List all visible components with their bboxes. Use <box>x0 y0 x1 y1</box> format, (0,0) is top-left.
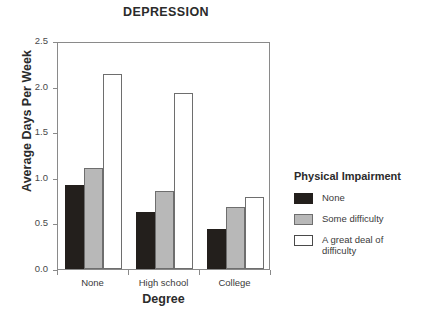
bar <box>174 93 193 269</box>
x-axis-category-label: None <box>57 277 128 288</box>
y-axis-tick-label: 0.5 <box>35 217 48 228</box>
x-axis-tick-mark <box>128 270 129 275</box>
legend: Physical Impairment NoneSome difficultyA… <box>294 170 424 265</box>
bar <box>136 212 155 269</box>
x-axis-category-label: College <box>199 277 270 288</box>
legend-swatch <box>294 214 313 225</box>
x-axis-tick-mark <box>199 270 200 275</box>
y-axis-tick-label: 2.5 <box>35 35 48 46</box>
legend-entry-label: A great deal of difficulty <box>322 234 414 256</box>
y-axis-tick-label: 1.5 <box>35 126 48 137</box>
bar <box>207 229 226 269</box>
legend-title: Physical Impairment <box>294 170 424 182</box>
legend-entry: None <box>294 192 424 204</box>
x-axis-label: Degree <box>57 292 270 306</box>
legend-entry-label: None <box>322 192 345 203</box>
legend-entries: NoneSome difficultyA great deal of diffi… <box>294 192 424 256</box>
y-axis-tick-label: 1.0 <box>35 172 48 183</box>
x-axis-category-label: High school <box>128 277 199 288</box>
bar <box>226 207 245 269</box>
legend-swatch <box>294 193 313 204</box>
bar <box>155 191 174 269</box>
chart-title: DEPRESSION <box>60 5 272 19</box>
legend-entry: A great deal of difficulty <box>294 234 424 256</box>
chart-page: DEPRESSION Average Days Per Week 0.00.51… <box>0 0 428 328</box>
x-axis-tick-mark <box>57 270 58 275</box>
bar <box>245 197 264 269</box>
y-axis-tick-label: 0.0 <box>35 263 48 274</box>
x-axis-tick-mark <box>270 270 271 275</box>
bar <box>84 168 103 269</box>
plot-area <box>57 42 270 270</box>
y-axis-label: Average Days Per Week <box>20 6 34 236</box>
y-axis-tick-label: 2.0 <box>35 81 48 92</box>
legend-entry: Some difficulty <box>294 213 424 225</box>
legend-entry-label: Some difficulty <box>322 213 384 224</box>
legend-swatch <box>294 235 313 246</box>
bar <box>103 74 122 269</box>
bar <box>65 185 84 269</box>
